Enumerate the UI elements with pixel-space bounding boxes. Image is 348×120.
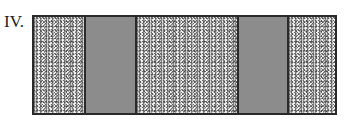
speckled-band-2 <box>135 17 237 113</box>
figure-label: IV. <box>4 12 24 32</box>
speckled-band-1 <box>34 17 84 113</box>
gray-band-2 <box>237 17 287 113</box>
speckled-band-3 <box>287 17 335 113</box>
banded-rectangle <box>32 15 337 115</box>
gray-band-1 <box>84 17 135 113</box>
